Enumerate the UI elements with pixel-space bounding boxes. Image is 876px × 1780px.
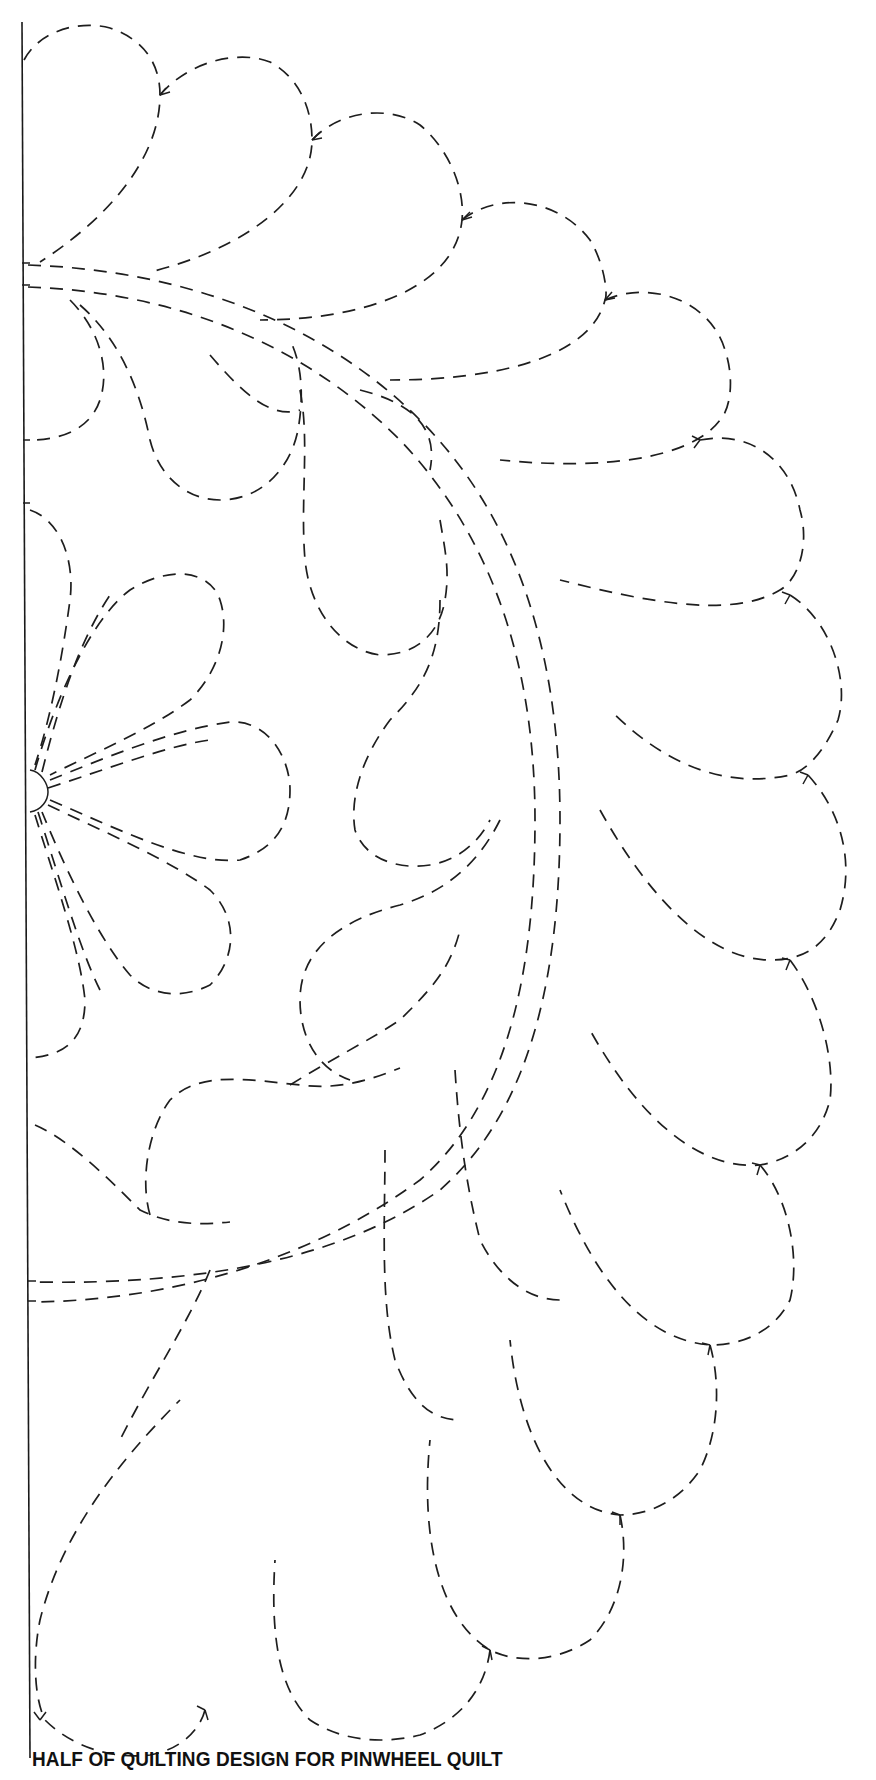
inner-feathers [30, 300, 560, 1440]
center-flower-petals [30, 510, 290, 1058]
quilting-design [0, 0, 876, 1780]
fold-line [22, 22, 36, 1758]
pattern-caption: HALF OF QUILTING DESIGN FOR PINWHEEL QUI… [32, 1748, 503, 1772]
pattern-page: HALF OF QUILTING DESIGN FOR PINWHEEL QUI… [0, 0, 876, 1780]
double-stitched-arc [28, 265, 560, 1302]
